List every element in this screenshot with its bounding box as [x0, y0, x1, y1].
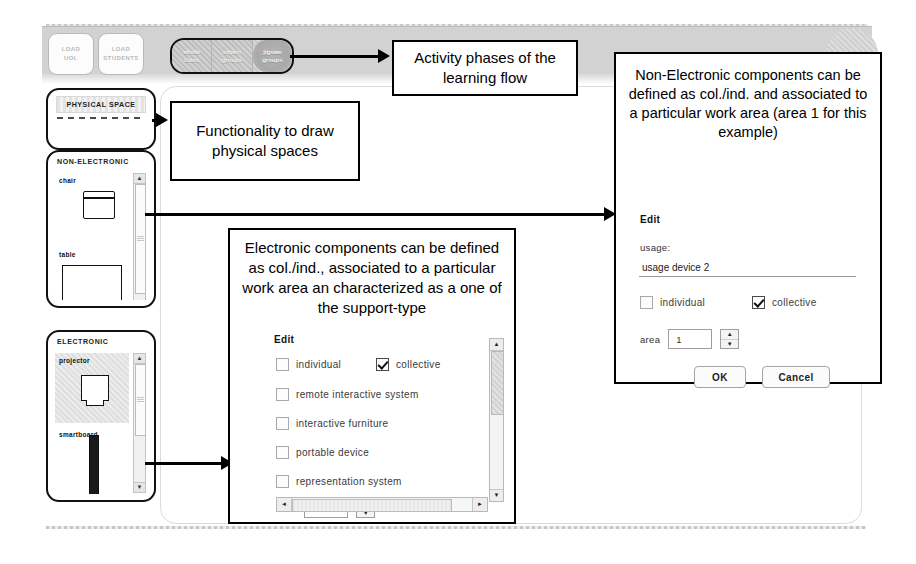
table-shape-icon[interactable]	[62, 265, 122, 300]
usage-field-label: usage:	[640, 242, 670, 253]
palette-item-label-projector: projector	[59, 357, 90, 364]
checkbox-interactive-furniture-label: interactive furniture	[296, 418, 388, 429]
scroll-right-icon[interactable]: ►	[472, 498, 487, 511]
usage-input[interactable]	[639, 260, 856, 277]
load-uol-button[interactable]: LOAD UOL	[48, 33, 94, 75]
scroll-thumb[interactable]	[491, 351, 504, 415]
checkbox-individual-box[interactable]	[276, 358, 289, 371]
non-electronic-edit-title: Edit	[640, 214, 660, 225]
checkbox-remote-interactive-system-box[interactable]	[276, 388, 289, 401]
checkbox-individual-box[interactable]	[640, 296, 653, 309]
palette-non-electronic-scrollbar[interactable]: ▲	[133, 173, 146, 300]
tab-jigsaw-groups-line1: jigsaw	[263, 48, 281, 56]
scroll-thumb[interactable]	[135, 184, 146, 294]
arrow-electronic-to-dialog	[145, 462, 225, 465]
load-students-line2: STUDENTS	[103, 54, 139, 63]
smartboard-shape-icon[interactable]	[89, 435, 99, 494]
chair-shape-icon[interactable]	[83, 191, 115, 219]
electronic-checkbox-portable-device[interactable]: portable device	[276, 446, 369, 459]
palette-non-electronic[interactable]: NON-ELECTRONIC chair table ▲	[46, 150, 156, 308]
palette-electronic-scrollbar[interactable]: ▲ ▼	[133, 353, 146, 493]
checkbox-individual-label: individual	[660, 297, 705, 308]
checkbox-portable-device-label: portable device	[296, 447, 369, 458]
palette-physical-space-title: PHYSICAL SPACE	[56, 96, 146, 113]
palette-item-label-table: table	[59, 251, 76, 258]
bottom-hairline	[46, 526, 866, 529]
electronic-checkbox-remote-interactive-system[interactable]: remote interactive system	[276, 388, 419, 401]
dashed-space-tool-icon[interactable]	[57, 117, 145, 119]
palette-non-electronic-title: NON-ELECTRONIC	[48, 152, 154, 165]
non-electronic-area-spin-buttons[interactable]: ▲ ▼	[720, 329, 739, 349]
spin-down-icon[interactable]: ▼	[721, 340, 738, 349]
checkbox-collective-label: collective	[772, 297, 817, 308]
load-students-button[interactable]: LOAD STUDENTS	[98, 33, 144, 75]
checkbox-collective-label: collective	[396, 359, 441, 370]
scroll-up-icon[interactable]: ▲	[490, 339, 503, 351]
arrow-head-physical-to-functionality	[156, 113, 168, 127]
scroll-thumb[interactable]	[135, 364, 146, 436]
tab-jigsaw-groups[interactable]: jigsaw groups	[253, 40, 292, 72]
electronic-checkbox-interactive-furniture[interactable]: interactive furniture	[276, 417, 388, 430]
cancel-button[interactable]: Cancel	[762, 366, 830, 388]
electronic-list-scrollbar[interactable]: ▲ ▼	[489, 338, 504, 502]
annotation-electronic-text: Electronic components can be defined as …	[230, 230, 514, 320]
electronic-edit-title: Edit	[274, 334, 294, 345]
electronic-checkbox-collective[interactable]: collective	[376, 358, 441, 371]
arrow-tabs-to-phases	[290, 55, 378, 58]
arrow-head-tabs-to-phases	[378, 49, 390, 63]
load-students-line1: LOAD	[112, 45, 131, 54]
non-electronic-area-value[interactable]: 1	[668, 329, 712, 349]
non-electronic-area-stepper[interactable]: area 1 ▲ ▼	[640, 329, 739, 349]
palette-physical-space[interactable]: PHYSICAL SPACE	[46, 88, 156, 150]
palette-electronic-title: ELECTRONIC	[48, 332, 154, 345]
tab-whole-class[interactable]: whole class	[172, 40, 212, 72]
scroll-up-icon[interactable]: ▲	[134, 354, 145, 364]
checkbox-portable-device-box[interactable]	[276, 446, 289, 459]
checkbox-individual-label: individual	[296, 359, 341, 370]
palette-electronic-body[interactable]: projector smartboard ▲ ▼	[55, 351, 147, 494]
scroll-up-icon[interactable]: ▲	[134, 174, 145, 184]
electronic-checkbox-individual[interactable]: individual	[276, 358, 341, 371]
checkbox-interactive-furniture-box[interactable]	[276, 417, 289, 430]
load-uol-line1: LOAD	[62, 45, 81, 54]
annotation-non-electronic-text: Non-Electronic components can be defined…	[616, 54, 880, 144]
checkbox-collective-box[interactable]	[752, 296, 765, 309]
arrow-nonelectronic-to-dialog	[145, 213, 610, 216]
checkbox-representation-system-box[interactable]	[276, 475, 289, 488]
tab-expert-groups-line2: groups	[222, 56, 242, 64]
checkbox-remote-interactive-system-label: remote interactive system	[296, 389, 419, 400]
tab-jigsaw-groups-line2: groups	[262, 56, 282, 64]
palette-electronic[interactable]: ELECTRONIC projector smartboard ▲ ▼	[46, 330, 156, 502]
electronic-horizontal-scrollbar[interactable]: ◄ ►	[276, 497, 488, 512]
projector-shape-icon[interactable]	[81, 375, 109, 401]
scroll-down-icon[interactable]: ▼	[134, 482, 145, 492]
palette-item-label-chair: chair	[59, 177, 76, 184]
ok-button[interactable]: OK	[694, 366, 746, 388]
electronic-components-dialog[interactable]: Electronic components can be defined as …	[228, 228, 516, 524]
load-uol-line2: UOL	[64, 54, 78, 63]
tab-whole-class-line2: class	[184, 56, 199, 64]
scroll-left-icon[interactable]: ◄	[277, 498, 292, 511]
checkbox-collective-box[interactable]	[376, 358, 389, 371]
scroll-down-icon[interactable]: ▼	[490, 489, 503, 501]
hscroll-thumb[interactable]	[292, 499, 452, 512]
tab-expert-groups[interactable]: expert groups	[212, 40, 252, 72]
spin-up-icon[interactable]: ▲	[721, 330, 738, 340]
non-electronic-components-dialog[interactable]: Non-Electronic components can be defined…	[614, 52, 882, 384]
screenshot-root: LOAD UOL LOAD STUDENTS whole class exper…	[0, 0, 916, 564]
non-electronic-checkbox-collective[interactable]: collective	[752, 296, 817, 309]
non-electronic-checkbox-individual[interactable]: individual	[640, 296, 705, 309]
tab-whole-class-line1: whole	[183, 48, 200, 56]
non-electronic-area-label: area	[640, 334, 660, 345]
activity-phase-tabs[interactable]: whole class expert groups jigsaw groups	[170, 38, 294, 74]
electronic-checkbox-representation-system[interactable]: representation system	[276, 475, 402, 488]
annotation-functionality: Functionality to draw physical spaces	[170, 101, 360, 181]
annotation-activity-phases: Activity phases of the learning flow	[392, 40, 578, 96]
palette-non-electronic-body[interactable]: chair table ▲	[55, 171, 147, 300]
tab-expert-groups-line1: expert	[223, 48, 241, 56]
checkbox-representation-system-label: representation system	[296, 476, 402, 487]
